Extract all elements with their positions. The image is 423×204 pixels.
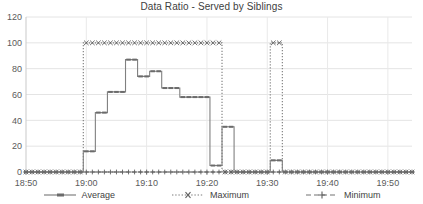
series-average	[24, 60, 415, 172]
legend-key-average	[43, 190, 77, 200]
svg-text:120: 120	[7, 12, 22, 22]
svg-text:40: 40	[12, 116, 22, 126]
chart-container: Data Ratio - Served by Siblings 02040608…	[0, 0, 423, 204]
svg-text:100: 100	[7, 38, 22, 48]
chart-legend: Average Maximum Minimum	[0, 187, 423, 203]
legend-label-minimum: Minimum	[344, 190, 381, 200]
svg-text:60: 60	[12, 90, 22, 100]
legend-key-maximum	[171, 190, 205, 200]
svg-text:0: 0	[17, 167, 22, 177]
legend-label-average: Average	[82, 190, 115, 200]
legend-key-minimum	[305, 190, 339, 200]
legend-item-average[interactable]: Average	[43, 190, 115, 200]
legend-item-maximum[interactable]: Maximum	[171, 190, 249, 200]
svg-text:80: 80	[12, 64, 22, 74]
svg-text:20: 20	[12, 141, 22, 151]
axis-ticks-y: 020406080100120	[7, 12, 22, 177]
series-maximum	[24, 41, 415, 175]
legend-label-maximum: Maximum	[210, 190, 249, 200]
legend-item-minimum[interactable]: Minimum	[305, 190, 381, 200]
chart-plot-area: 020406080100120 18:5019:0019:1019:2019:3…	[0, 0, 423, 204]
